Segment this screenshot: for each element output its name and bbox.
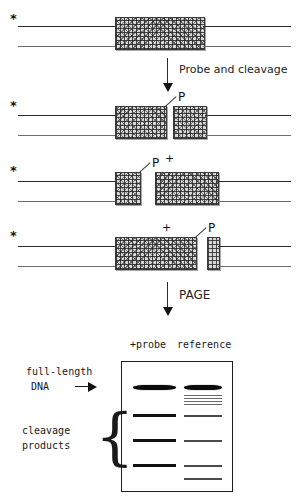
gel-band-probe-full-length [133, 385, 176, 390]
gel-band-probe-product-2 [133, 439, 176, 442]
dna-strand-bottom-right-panel1 [203, 46, 291, 47]
cleaved-block-left-panel4 [115, 237, 197, 270]
gel-band-reference-ladder-2 [184, 398, 222, 399]
plus-sign-panel4: + [162, 222, 171, 233]
cleaved-block-left-panel2 [115, 106, 167, 139]
gel-band-reference-marker-4 [184, 478, 222, 480]
gel-band-reference-ladder-3 [184, 401, 222, 402]
dna-strand-top-panel4 [18, 246, 116, 247]
gel-band-reference-marker-3 [184, 465, 222, 467]
radiolabel-asterisk-panel2: * [10, 99, 17, 112]
gel-band-reference-marker-2 [184, 440, 222, 442]
cleavage-products-label-line2: products [22, 440, 70, 452]
phosphate-label-panel2: P [178, 91, 185, 103]
radiolabel-asterisk-panel1: * [10, 12, 17, 25]
gel-band-reference-full-length [184, 385, 222, 390]
phosphate-label-panel4: P [208, 222, 215, 234]
dna-strand-bottom-panel2 [18, 135, 116, 136]
gel-band-reference-ladder-1 [184, 395, 222, 396]
gel-band-reference-ladder-4 [184, 404, 222, 405]
phosphate-label-panel3: P [152, 157, 159, 169]
radiolabel-asterisk-panel3: * [10, 164, 17, 177]
gel-band-probe-product-3 [133, 464, 176, 467]
phosphate-leader-panel4 [194, 227, 207, 238]
process-arrow-shaft-1 [167, 58, 168, 84]
dna-strand-top-right-panel4 [218, 246, 291, 247]
gel-lane-header-reference: reference [177, 340, 231, 350]
dna-strand-bottom-panel4 [18, 266, 116, 267]
probe-block-full [115, 17, 205, 50]
cleaved-block-right-panel2 [173, 106, 207, 139]
dna-strand-bottom-panel3 [18, 201, 116, 202]
gel-lane-header-probe: +probe [130, 340, 166, 350]
process-arrow-head-2 [163, 307, 173, 316]
dna-strand-bottom-right-panel4 [218, 266, 291, 267]
full-length-pointer-head [88, 382, 97, 392]
dna-strand-top-panel1 [18, 26, 116, 27]
process-arrow-head-1 [163, 83, 173, 92]
plus-sign-panel3: + [165, 153, 174, 164]
probe-cleavage-page-figure: * Probe and cleavage * P * P + * P + PAG… [0, 0, 301, 504]
gel-panel [121, 361, 233, 492]
cleavage-products-label-line1: cleavage [22, 425, 70, 437]
dna-strand-top-panel2 [18, 115, 116, 116]
full-length-dna-label-line2: DNA [31, 381, 49, 393]
phosphate-leader-panel3 [138, 162, 151, 173]
process-arrow-shaft-2 [167, 282, 168, 308]
cleavage-products-brace: { [95, 406, 134, 468]
full-length-dna-label-line1: full-length [26, 366, 92, 378]
cleaved-block-left-panel3 [115, 172, 141, 205]
dna-strand-top-right-panel3 [217, 181, 291, 182]
radiolabel-asterisk-panel4: * [10, 229, 17, 242]
cleaved-block-right-panel3 [155, 172, 219, 205]
dna-strand-bottom-panel1 [18, 46, 116, 47]
dna-strand-top-right-panel2 [205, 115, 291, 116]
dna-strand-bottom-right-panel2 [205, 135, 291, 136]
gel-band-probe-product-1 [133, 414, 176, 417]
process-arrow-label-1: Probe and cleavage [179, 64, 288, 75]
dna-strand-top-panel3 [18, 181, 116, 182]
full-length-pointer-shaft [75, 386, 89, 387]
process-arrow-label-2: PAGE [179, 289, 210, 301]
dna-strand-bottom-right-panel3 [217, 201, 291, 202]
dna-strand-top-right-panel1 [203, 26, 291, 27]
gel-band-reference-marker-1 [184, 415, 222, 417]
